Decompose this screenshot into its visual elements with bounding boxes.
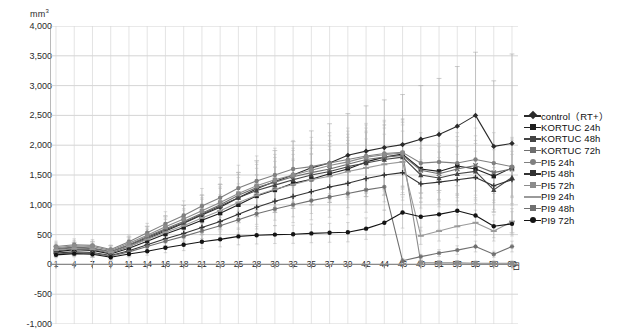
data-point-marker bbox=[382, 153, 386, 157]
data-point-marker bbox=[89, 248, 95, 250]
legend-marker-icon bbox=[524, 180, 541, 191]
series-markers bbox=[54, 153, 514, 254]
legend-item[interactable]: control（RT+） bbox=[524, 110, 640, 122]
data-point-marker bbox=[455, 123, 460, 128]
series-line bbox=[56, 154, 512, 254]
data-point-marker bbox=[382, 145, 387, 150]
legend-item[interactable]: KORTUC 24h bbox=[524, 122, 640, 134]
y-tick-label: 2,000 bbox=[6, 140, 52, 150]
data-point-marker bbox=[163, 246, 167, 250]
data-point-marker bbox=[181, 243, 185, 247]
series-markers bbox=[54, 152, 514, 256]
data-point-marker bbox=[290, 184, 296, 186]
data-point-marker bbox=[200, 204, 204, 208]
data-point-marker bbox=[90, 244, 94, 248]
legend-label: PI9 72h bbox=[541, 215, 574, 226]
series-markers bbox=[54, 185, 514, 263]
data-point-marker bbox=[437, 160, 441, 164]
chart-svg bbox=[50, 26, 518, 324]
data-point-marker bbox=[109, 255, 113, 259]
data-point-marker bbox=[145, 233, 149, 237]
data-point-marker bbox=[236, 186, 240, 190]
y-tick-label: 1,500 bbox=[6, 170, 52, 180]
data-point-marker bbox=[162, 231, 168, 233]
data-point-marker bbox=[455, 261, 459, 265]
data-point-marker bbox=[437, 261, 441, 265]
data-point-marker bbox=[127, 241, 131, 245]
legend-item[interactable]: KORTUC 72h bbox=[524, 145, 640, 157]
data-point-marker bbox=[218, 200, 222, 204]
y-tick-label: 3,000 bbox=[6, 81, 52, 91]
legend-label: KORTUC 72h bbox=[541, 145, 600, 156]
data-point-marker bbox=[273, 178, 277, 182]
data-point-marker bbox=[163, 225, 167, 229]
data-point-marker bbox=[126, 245, 132, 247]
data-point-marker bbox=[254, 233, 258, 237]
data-point-marker bbox=[291, 232, 295, 236]
data-point-marker bbox=[510, 164, 514, 168]
data-point-marker bbox=[254, 194, 260, 196]
data-point-marker bbox=[254, 184, 258, 188]
legend-item[interactable]: PI5 72h bbox=[524, 180, 640, 192]
legend-label: PI9 48h bbox=[541, 203, 574, 214]
data-point-marker bbox=[400, 210, 404, 214]
plot-area bbox=[50, 26, 518, 324]
y-tick-label: -500 bbox=[6, 289, 52, 299]
legend-label: PI5 24h bbox=[541, 157, 574, 168]
data-point-marker bbox=[218, 237, 222, 241]
legend-marker-icon bbox=[524, 215, 541, 226]
legend-item[interactable]: PI9 24h bbox=[524, 191, 640, 203]
data-point-marker bbox=[473, 261, 477, 265]
series-markers bbox=[54, 150, 514, 252]
legend-label: KORTUC 48h bbox=[541, 133, 600, 144]
data-point-marker bbox=[254, 179, 258, 183]
data-point-marker bbox=[419, 215, 423, 219]
data-point-marker bbox=[364, 155, 368, 159]
data-point-marker bbox=[400, 161, 406, 163]
y-axis-tick-labels: 4,0003,5003,0002,5002,0001,5001,0005000-… bbox=[0, 0, 52, 332]
data-point-marker bbox=[400, 151, 404, 155]
legend-marker-icon bbox=[524, 145, 541, 156]
data-point-marker bbox=[71, 248, 77, 250]
series-line bbox=[56, 173, 512, 256]
data-point-marker bbox=[455, 161, 459, 165]
legend-label: KORTUC 24h bbox=[541, 122, 600, 133]
legend-marker-icon bbox=[524, 191, 541, 202]
data-point-marker bbox=[236, 234, 240, 238]
data-point-marker bbox=[381, 163, 387, 165]
data-point-marker bbox=[436, 132, 441, 137]
data-point-marker bbox=[327, 231, 331, 235]
data-point-marker bbox=[53, 249, 59, 251]
legend-marker-icon bbox=[524, 203, 541, 214]
data-point-marker bbox=[473, 157, 477, 161]
data-point-marker bbox=[327, 175, 333, 177]
legend-item[interactable]: PI9 48h bbox=[524, 203, 640, 215]
data-point-marker bbox=[309, 168, 313, 172]
data-point-marker bbox=[54, 253, 58, 257]
data-point-marker bbox=[454, 225, 460, 227]
data-point-marker bbox=[108, 252, 114, 254]
legend-item[interactable]: PI5 48h bbox=[524, 168, 640, 180]
data-point-marker bbox=[364, 226, 368, 230]
data-point-marker bbox=[90, 252, 94, 256]
data-point-marker bbox=[473, 213, 477, 217]
legend-item[interactable]: PI5 24h bbox=[524, 156, 640, 168]
data-point-marker bbox=[510, 222, 514, 226]
data-point-marker bbox=[72, 251, 76, 255]
data-point-marker bbox=[308, 179, 314, 181]
data-point-marker bbox=[217, 210, 223, 212]
legend-label: PI5 72h bbox=[541, 180, 574, 191]
legend-marker-icon bbox=[524, 122, 541, 133]
data-point-marker bbox=[273, 173, 277, 177]
data-point-marker bbox=[455, 209, 459, 213]
legend-item[interactable]: KORTUC 48h bbox=[524, 133, 640, 145]
data-point-marker bbox=[473, 222, 479, 224]
y-tick-label: 4,000 bbox=[6, 21, 52, 31]
legend-label: PI9 24h bbox=[541, 191, 574, 202]
y-tick-label: 0 bbox=[6, 259, 52, 269]
legend-marker-icon bbox=[524, 133, 541, 144]
data-point-marker bbox=[400, 142, 405, 147]
data-point-marker bbox=[436, 230, 442, 232]
legend-label: control（RT+） bbox=[541, 109, 609, 123]
legend-item[interactable]: PI9 72h bbox=[524, 214, 640, 226]
